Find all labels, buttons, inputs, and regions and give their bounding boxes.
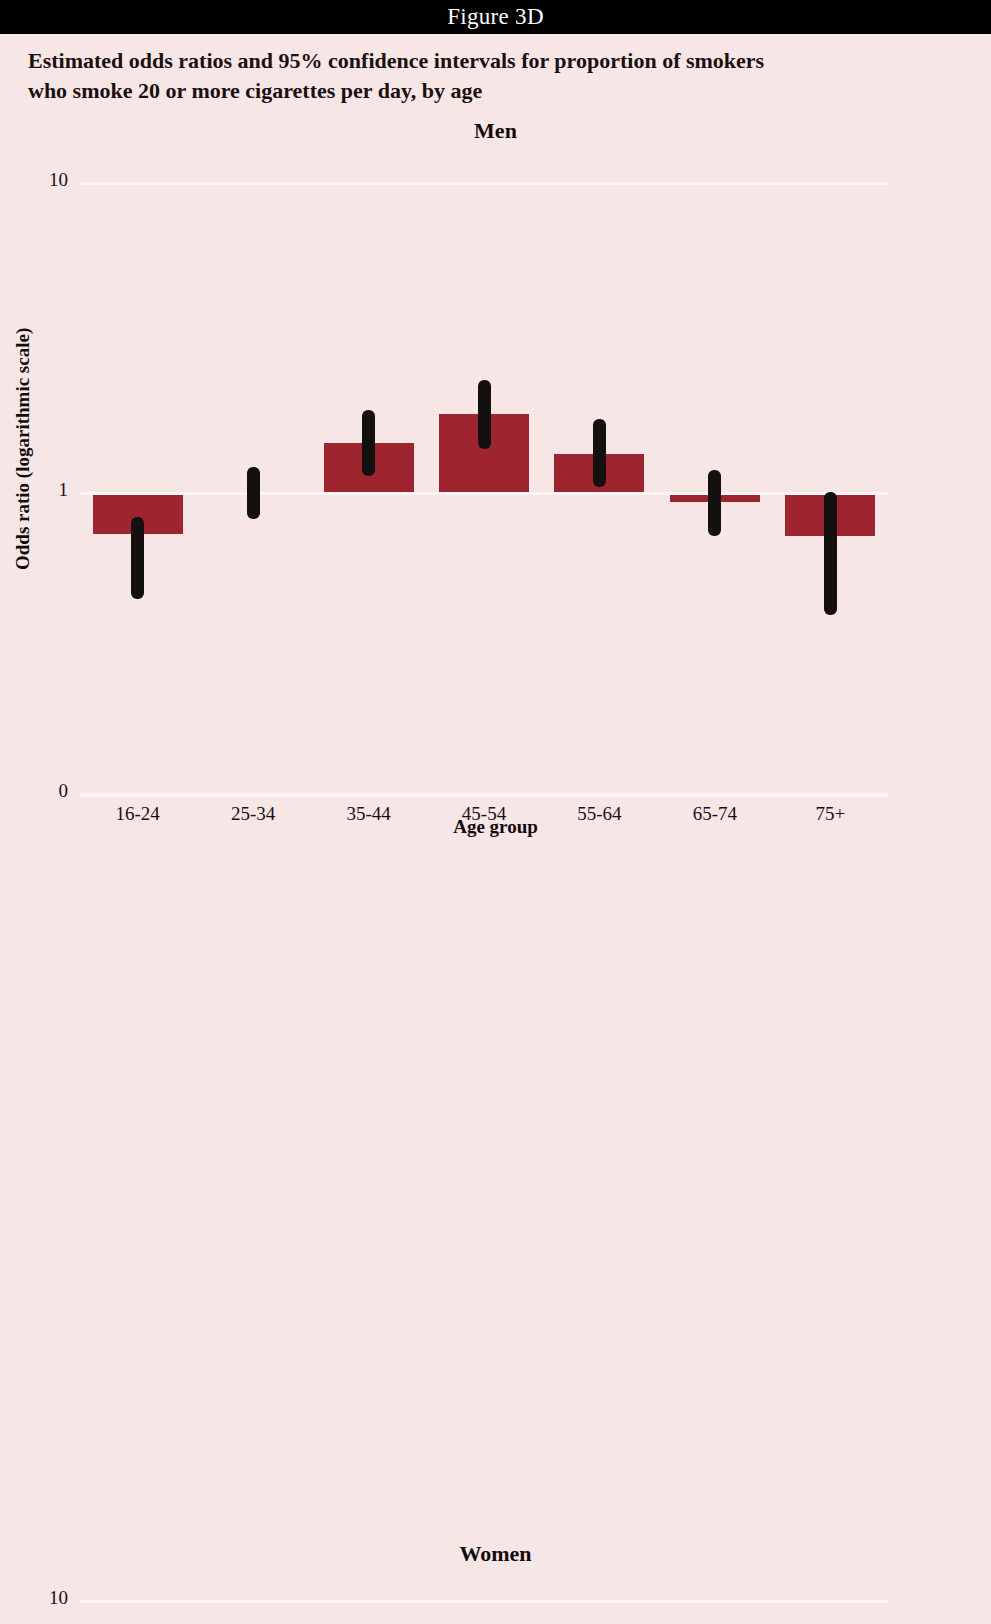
men-chart-panel: Men Odds ratio (logarithmic scale) Age g… (0, 0, 991, 810)
men-y-axis-label: Odds ratio (logarithmic scale) (12, 330, 34, 570)
reference-line-1 (80, 492, 888, 495)
confidence-interval-bar (247, 467, 260, 518)
women-chart-heading: Women (0, 1541, 991, 1567)
y-tick-label: 10 (22, 169, 68, 191)
confidence-interval-bar (824, 492, 837, 615)
confidence-interval-bar (478, 380, 491, 449)
confidence-interval-bar (593, 419, 606, 487)
confidence-interval-bar (362, 410, 375, 476)
gridline-10 (80, 182, 888, 185)
women-plot-area (80, 1600, 888, 1624)
men-plot-area (80, 182, 888, 793)
y-tick-label: 1 (22, 479, 68, 501)
confidence-interval-bar (131, 517, 144, 599)
y-tick-label: 10 (22, 1587, 68, 1609)
gridline-10 (80, 1600, 888, 1603)
women-chart-panel: Women Odds ratio (logarithmic scale) Age… (0, 709, 991, 1624)
confidence-interval-bar (708, 470, 721, 537)
men-chart-heading: Men (0, 118, 991, 144)
